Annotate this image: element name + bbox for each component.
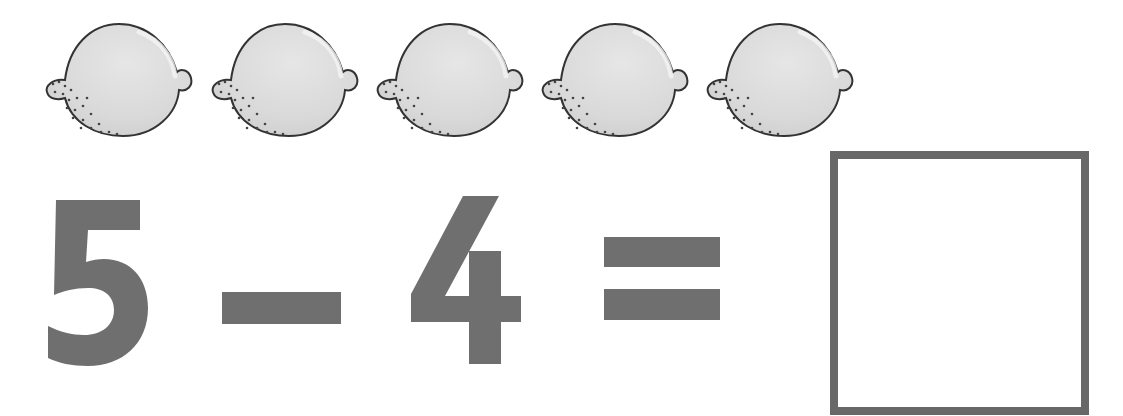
lemon-icon bbox=[43, 18, 195, 140]
lemon-icon bbox=[374, 18, 526, 140]
minuend-text: 5 bbox=[0, 0, 1, 1]
lemon-icon bbox=[704, 18, 856, 140]
equals-bar-bottom bbox=[604, 289, 720, 320]
subtrahend-text: 4 bbox=[0, 0, 1, 1]
lemon-icon bbox=[209, 18, 361, 140]
operator-text: − bbox=[0, 0, 1, 1]
digit-minuend bbox=[44, 198, 148, 368]
equals-bar-top bbox=[604, 237, 720, 267]
lemon-icon bbox=[539, 18, 691, 140]
answer-box[interactable] bbox=[830, 151, 1089, 415]
minus-sign bbox=[222, 292, 341, 324]
equals-text: = bbox=[0, 0, 1, 1]
digit-subtrahend bbox=[409, 196, 521, 364]
